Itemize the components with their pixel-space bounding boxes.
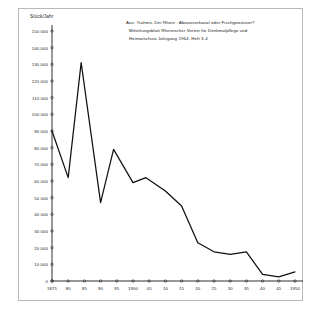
axes (51, 25, 303, 282)
chart-figure: Stück/Jahr Aus: Trahms, Der Rhein : Abwa… (0, 0, 321, 318)
data-series-catch (52, 63, 295, 277)
plot-area (0, 0, 321, 318)
